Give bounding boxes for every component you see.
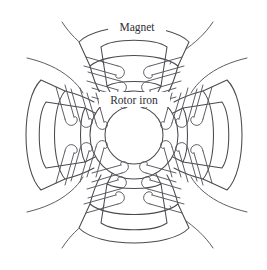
magnet-pole-left [26, 80, 97, 190]
magnet-pole-right [171, 80, 242, 190]
diagram-canvas: Magnet Rotor iron [0, 0, 267, 270]
magnet-label: Magnet [119, 21, 155, 34]
rotor-cross-section-figure: Magnet Rotor iron [0, 0, 267, 270]
rotor-iron-label: Rotor iron [110, 94, 158, 106]
magnet-pole-bottom [79, 172, 189, 243]
magnet-pole-top [79, 27, 189, 98]
